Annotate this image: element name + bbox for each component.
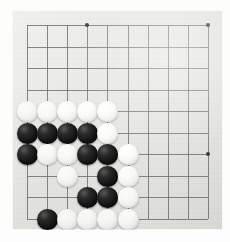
go-stone-white[interactable] xyxy=(118,144,139,165)
go-board-surface[interactable] xyxy=(13,11,222,229)
go-stone-black[interactable] xyxy=(57,123,78,144)
go-stone-black[interactable] xyxy=(17,144,38,165)
go-stone-white[interactable] xyxy=(57,144,78,165)
go-stone-white[interactable] xyxy=(118,187,139,208)
grid-line-horizontal xyxy=(27,68,208,69)
star-point-hoshi xyxy=(206,23,210,27)
grid-line-vertical xyxy=(188,25,189,219)
grid-line-vertical xyxy=(148,25,149,219)
go-stone-black[interactable] xyxy=(37,123,58,144)
go-stone-white[interactable] xyxy=(17,101,38,122)
grid-line-horizontal xyxy=(27,90,208,91)
star-point-hoshi xyxy=(206,152,210,156)
go-stone-white[interactable] xyxy=(97,209,118,230)
grid-line-horizontal xyxy=(27,47,208,48)
page-edge xyxy=(0,230,230,242)
go-stone-black[interactable] xyxy=(17,123,38,144)
go-stone-white[interactable] xyxy=(118,166,139,187)
go-stone-white[interactable] xyxy=(37,144,58,165)
grid-line-horizontal xyxy=(27,25,208,26)
go-stone-white[interactable] xyxy=(57,209,78,230)
grid-line-vertical xyxy=(168,25,169,219)
go-stone-white[interactable] xyxy=(77,101,98,122)
star-point-hoshi xyxy=(85,23,89,27)
go-stone-white[interactable] xyxy=(37,101,58,122)
go-stone-black[interactable] xyxy=(37,209,58,230)
go-board-scene xyxy=(0,0,230,242)
go-stone-white[interactable] xyxy=(77,209,98,230)
go-stone-black[interactable] xyxy=(97,144,118,165)
go-stone-white[interactable] xyxy=(57,101,78,122)
go-stone-white[interactable] xyxy=(118,209,139,230)
go-stone-white[interactable] xyxy=(57,166,78,187)
go-stone-white[interactable] xyxy=(97,101,118,122)
go-stone-black[interactable] xyxy=(77,123,98,144)
go-stone-black[interactable] xyxy=(97,187,118,208)
go-stone-black[interactable] xyxy=(97,166,118,187)
go-stone-black[interactable] xyxy=(77,144,98,165)
grid-line-vertical xyxy=(208,25,209,219)
go-stone-white[interactable] xyxy=(97,123,118,144)
go-stone-black[interactable] xyxy=(77,187,98,208)
